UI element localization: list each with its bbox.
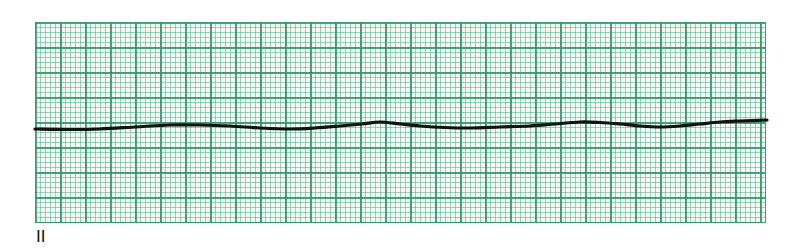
ecg-grid-paper xyxy=(35,22,766,223)
lead-label: II xyxy=(36,228,45,246)
